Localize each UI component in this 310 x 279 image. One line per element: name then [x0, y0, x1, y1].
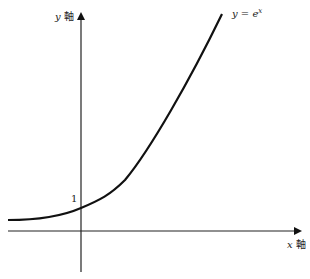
x-axis-label: x軸: [287, 238, 306, 250]
exp-graph: y軸 x軸 y = ex 1: [0, 0, 310, 279]
y-axis-label: y軸: [54, 10, 74, 22]
intercept-label: 1: [71, 193, 77, 204]
curve-label: y = ex: [231, 7, 262, 19]
exp-curve: [8, 14, 222, 220]
